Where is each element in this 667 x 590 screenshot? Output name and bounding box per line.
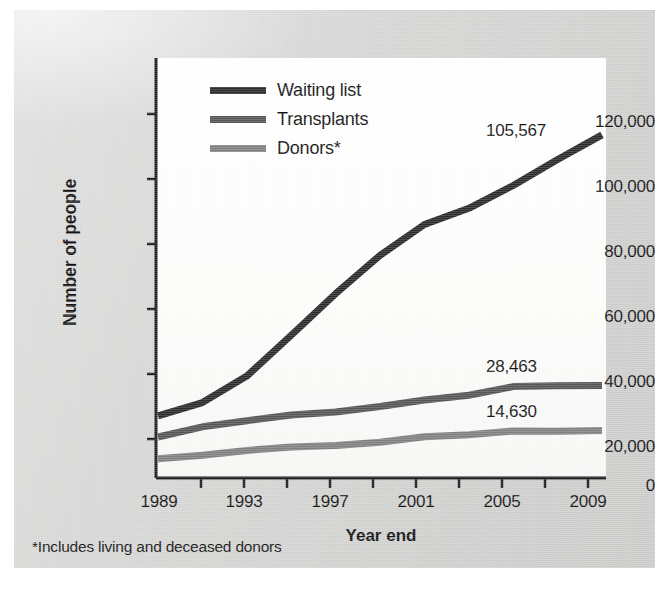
legend: Waiting list Transplants Donors* xyxy=(210,76,368,163)
legend-label-waiting-list: Waiting list xyxy=(277,80,361,101)
scanned-page: Number of people 120,000 100,000 80,000 … xyxy=(0,0,667,590)
figure-panel: Number of people 120,000 100,000 80,000 … xyxy=(14,10,655,568)
legend-label-donors: Donors* xyxy=(277,138,341,159)
footnote: *Includes living and deceased donors xyxy=(32,538,282,556)
line-chart: Number of people 120,000 100,000 80,000 … xyxy=(14,10,655,568)
series-line-donors xyxy=(158,431,602,459)
legend-swatch-waiting-list xyxy=(210,87,266,94)
series-value-waiting-list: 105,567 xyxy=(486,121,546,141)
legend-item-donors[interactable]: Donors* xyxy=(210,134,368,163)
legend-item-waiting-list[interactable]: Waiting list xyxy=(210,76,368,105)
legend-swatch-transplants xyxy=(210,116,266,123)
series-value-donors: 14,630 xyxy=(486,402,537,422)
legend-label-transplants: Transplants xyxy=(277,109,368,130)
legend-item-transplants[interactable]: Transplants xyxy=(210,105,368,134)
legend-swatch-donors xyxy=(210,145,266,152)
series-value-transplants: 28,463 xyxy=(486,357,537,377)
